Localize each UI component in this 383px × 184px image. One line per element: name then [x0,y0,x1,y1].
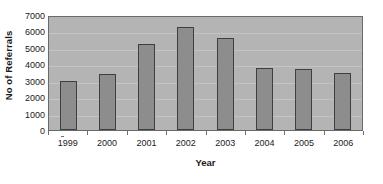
x-axis-tick-label: 2001 [127,137,166,151]
x-axis-tick-mark [206,131,207,135]
bar-1999 [60,81,77,130]
bar-2005 [295,69,312,130]
bar-2003 [217,38,234,130]
bar-2001 [138,44,155,130]
x-axis-tick-mark [245,131,246,135]
x-axis-tick-labels: 19992000200120022003200420052006 [48,137,363,151]
x-axis-tick-mark [48,131,49,135]
bar-slot [166,17,205,130]
x-axis-tick-label: 2005 [284,137,323,151]
x-axis-tick-mark [284,131,285,135]
y-axis-tick-label: 1000 [16,110,45,120]
bar-slot [245,17,284,130]
y-axis-tick-label: 5000 [16,44,45,54]
x-axis-tick-label: 2003 [206,137,245,151]
y-axis-tick-label: 4000 [16,60,45,70]
x-axis-tick-label: 2000 [87,137,126,151]
bar-slot [206,17,245,130]
bar-chart-figure: No of Referrals 010002000300040005000600… [0,0,383,184]
x-axis-tick-label: 2002 [166,137,205,151]
x-axis-tick-mark [363,131,364,135]
x-axis-tick-mark [127,131,128,135]
bar-slot [284,17,323,130]
x-axis-tick-label: 2006 [324,137,363,151]
plot-area [48,16,363,131]
y-axis-tick-label: 0 [16,126,45,136]
bars-container [49,17,362,130]
y-axis-tick-label: 3000 [16,77,45,87]
x-axis-title-label: Year [195,157,215,168]
y-axis-tick-labels: 01000200030004000500060007000 [16,11,45,135]
bar-slot [88,17,127,130]
bar-slot [49,17,88,130]
y-axis-tick-label: 6000 [16,27,45,37]
bar-2006 [334,73,351,130]
y-axis-title-label: No of Referrals [4,30,15,100]
x-axis-tick-mark [166,131,167,135]
x-axis-tick-label: 1999 [48,137,87,151]
x-axis-title: Year [48,157,363,168]
bar-2000 [99,74,116,130]
x-axis-tick-marks [48,131,363,135]
x-axis-tick-mark [87,131,88,135]
x-axis-tick-label: 2004 [245,137,284,151]
x-axis-tick-mark [324,131,325,135]
bar-slot [127,17,166,130]
bar-2002 [177,27,194,130]
bar-slot [323,17,362,130]
bar-2004 [256,68,273,130]
y-axis-tick-label: 7000 [16,11,45,21]
y-axis-tick-label: 2000 [16,93,45,103]
